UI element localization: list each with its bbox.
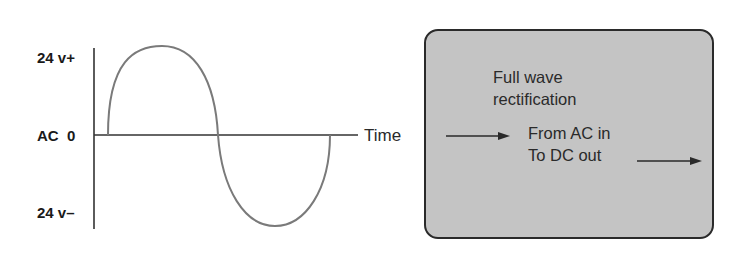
arrow-in-icon <box>446 132 510 140</box>
arrow-out-icon <box>637 157 702 165</box>
arrows-layer <box>0 0 737 256</box>
